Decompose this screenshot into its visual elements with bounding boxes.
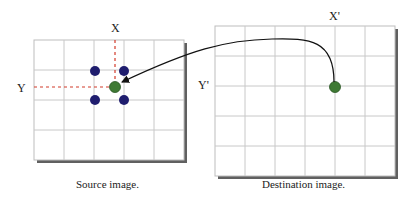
destination-panel — [215, 26, 398, 179]
destination-y-label: Y' — [198, 79, 209, 91]
destination-caption: Destination image. — [262, 178, 345, 190]
neighbor-pixel-top-right — [119, 66, 129, 76]
source-panel — [34, 40, 187, 163]
destination-point — [330, 82, 341, 93]
neighbor-pixel-bottom-right — [119, 95, 129, 105]
source-x-label: X — [111, 22, 120, 34]
neighbor-pixel-bottom-left — [90, 95, 100, 105]
destination-x-label: X' — [329, 10, 340, 22]
mapping-diagram — [0, 0, 415, 201]
source-y-label: Y — [17, 82, 26, 94]
neighbor-pixel-top-left — [90, 66, 100, 76]
source-sample-point — [110, 82, 121, 93]
source-caption: Source image. — [76, 178, 139, 190]
